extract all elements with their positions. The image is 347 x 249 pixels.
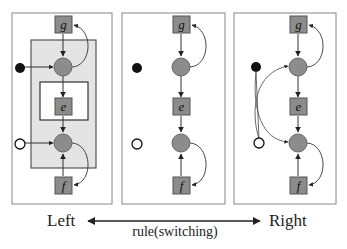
node-top-circle <box>289 58 307 76</box>
node-bottom-circle <box>54 134 72 152</box>
node-e-label: e <box>296 99 302 114</box>
node-g-label: g <box>178 17 185 32</box>
node-bottom-circle <box>289 134 307 152</box>
panel-right: g e f <box>234 13 336 204</box>
node-e-label: e <box>179 99 185 114</box>
panel-middle: g e f <box>122 13 225 204</box>
node-e-label: e <box>61 99 67 114</box>
panel-left: g e f <box>12 13 112 204</box>
open-dot <box>132 139 142 149</box>
filled-dot <box>15 63 25 73</box>
filled-dot <box>251 62 261 72</box>
left-label: Left <box>47 211 75 231</box>
node-top-circle <box>172 58 190 76</box>
open-dot <box>254 138 264 148</box>
open-dot <box>15 139 25 149</box>
node-bottom-circle <box>172 134 190 152</box>
rule-label: rule(switching) <box>127 224 223 240</box>
filled-dot <box>132 63 142 73</box>
node-g-label: g <box>295 17 302 32</box>
node-top-circle <box>54 58 72 76</box>
node-g-label: g <box>60 17 67 32</box>
right-label: Right <box>269 211 307 231</box>
